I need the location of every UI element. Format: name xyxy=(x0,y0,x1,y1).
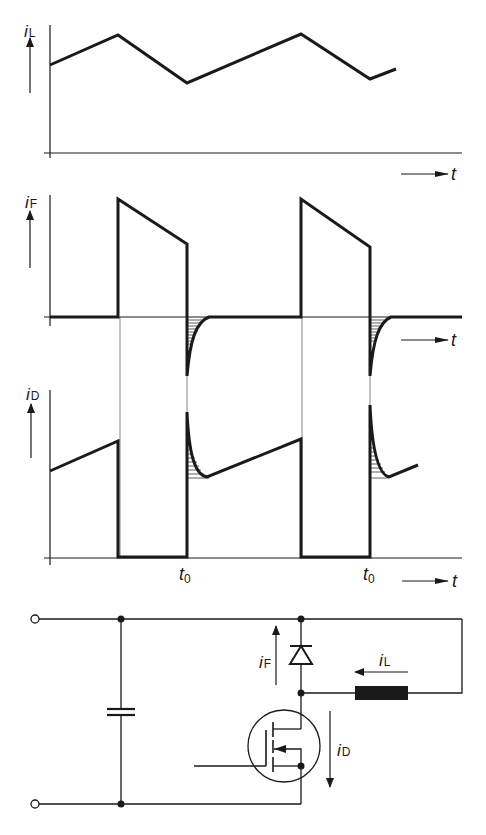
circuit-current-labels: iF iL iD xyxy=(259,626,408,787)
plot-drain-current: iD t0 t0 t xyxy=(26,385,462,591)
time-label: t xyxy=(451,164,457,184)
t0-marker-1: t0 xyxy=(179,564,191,586)
circuit-id-label: iD xyxy=(337,741,351,760)
if-waveform xyxy=(50,199,462,376)
plot-diode-current: iF t xyxy=(25,193,462,557)
time-label: t xyxy=(451,330,457,350)
il-waveform xyxy=(50,34,396,83)
diagram-canvas: iL t iF t xyxy=(0,0,486,835)
t0-marker-2: t0 xyxy=(363,564,375,586)
if-label: iF xyxy=(25,193,37,212)
circuit-il-label: iL xyxy=(379,651,391,670)
input-terminal-negative xyxy=(31,800,39,808)
inductor-icon xyxy=(355,686,408,700)
id-waveform xyxy=(50,405,418,557)
diode-icon xyxy=(290,619,312,693)
capacitor-icon xyxy=(107,619,135,804)
mosfet-icon xyxy=(194,693,320,804)
time-label: t xyxy=(452,571,458,591)
circuit-schematic xyxy=(31,615,462,808)
input-terminal-positive xyxy=(31,615,39,623)
id-label: iD xyxy=(26,385,40,404)
plot-inductor-current: iL t xyxy=(24,22,462,184)
il-label: iL xyxy=(24,22,36,41)
circuit-if-label: iF xyxy=(259,653,271,672)
